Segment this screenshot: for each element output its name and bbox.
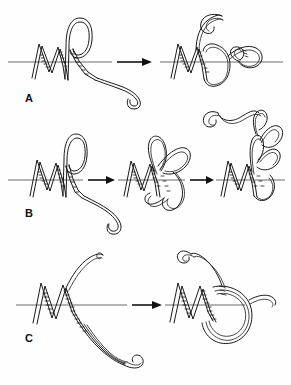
panel-c-left: [33, 253, 143, 368]
panel-a-group: [8, 14, 283, 109]
panel-b-stage-3: [203, 110, 282, 200]
panel-b-arrow-2: [190, 176, 214, 184]
panel-c-arrow: [132, 301, 162, 309]
panel-b-stage-2: [124, 136, 190, 210]
panel-b-group: [8, 110, 285, 234]
panel-a-right-knot: [171, 14, 262, 86]
panel-a-left-ribbon: [32, 18, 140, 109]
panel-c-group: [16, 251, 276, 368]
figure-canvas: [0, 0, 291, 385]
panel-label-a: A: [25, 92, 33, 104]
panel-b-arrow-1: [88, 176, 115, 184]
panel-label-c: C: [25, 332, 33, 344]
figure-root: A B C: [0, 0, 291, 385]
panel-c-right: [170, 251, 276, 344]
panel-b-stage-1: [30, 134, 121, 234]
panel-label-b: B: [25, 207, 33, 219]
panel-a-arrow: [117, 58, 152, 66]
